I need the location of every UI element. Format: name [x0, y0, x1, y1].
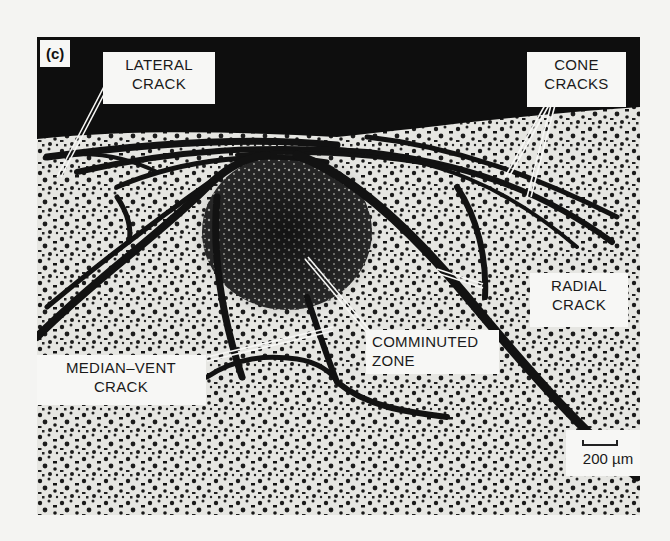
label-lateral-crack: LATERAL CRACK	[103, 52, 215, 104]
label-radial-crack-line2: CRACK	[536, 295, 622, 314]
label-median-vent-crack-line2: CRACK	[42, 377, 200, 396]
label-cone-cracks-line2: CRACKS	[533, 74, 620, 93]
label-median-vent-crack-line1: MEDIAN–VENT	[42, 358, 200, 377]
panel-tag: (c)	[40, 40, 70, 67]
label-cone-cracks-line1: CONE	[533, 55, 620, 74]
label-median-vent-crack: MEDIAN–VENT CRACK	[37, 355, 206, 405]
label-comminuted-zone-line1: COMMINUTED	[372, 332, 493, 351]
label-cone-cracks: CONE CRACKS	[527, 52, 626, 107]
label-lateral-crack-line1: LATERAL	[109, 55, 209, 74]
scale-bar-line	[582, 440, 618, 446]
label-comminuted-zone: COMMINUTED ZONE	[366, 330, 499, 374]
label-radial-crack: RADIAL CRACK	[530, 273, 628, 327]
micrograph-figure: (c) LATERAL CRACK CONE CRACKS RADIAL CRA…	[37, 37, 640, 515]
scale-bar-label: 200 µm	[566, 450, 640, 467]
scale-bar: 200 µm	[566, 430, 640, 476]
label-radial-crack-line1: RADIAL	[536, 276, 622, 295]
label-comminuted-zone-line2: ZONE	[372, 351, 493, 370]
label-lateral-crack-line2: CRACK	[109, 74, 209, 93]
